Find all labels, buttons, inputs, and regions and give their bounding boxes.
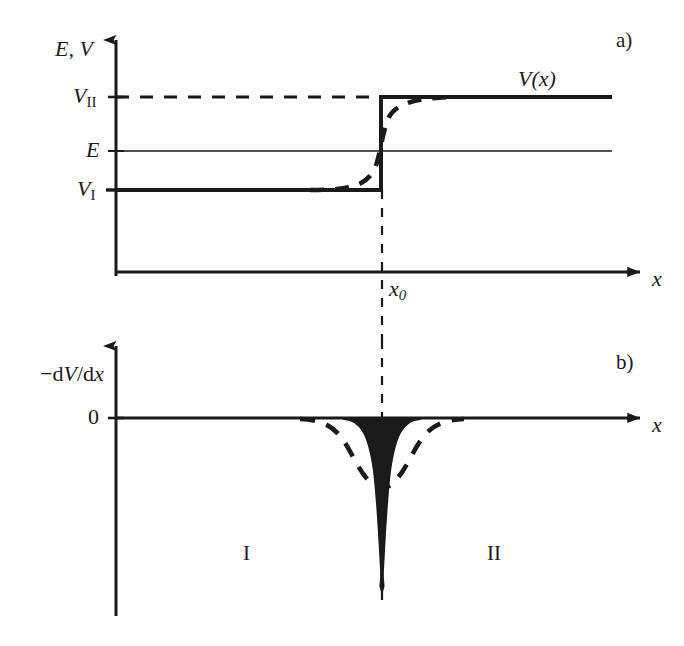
panel-a-tag: a) <box>616 30 632 51</box>
panel-b-group <box>108 340 640 616</box>
y-axis-label-text: E, V <box>55 36 93 61</box>
level-vi-label: VI <box>77 178 95 203</box>
potential-curve-label: V(x) <box>518 68 556 90</box>
panel-a-x-axis-label: x <box>652 268 662 290</box>
panel-a-y-axis-label: E, V <box>55 38 93 60</box>
level-vii-symbol: V <box>73 83 86 108</box>
region-label-two: II <box>487 543 501 564</box>
x0-subscript: 0 <box>399 287 406 303</box>
x-symbol: x <box>94 361 104 386</box>
x-axis-label-text: x <box>652 266 662 291</box>
level-vii-label: VII <box>73 85 96 110</box>
v-symbol: V <box>63 361 76 386</box>
level-e-label: E <box>86 139 99 161</box>
panel-b-x-axis-label-text: x <box>652 412 662 437</box>
region-label-one: I <box>243 543 250 564</box>
x0-symbol: x <box>389 276 399 301</box>
level-vi-symbol: V <box>77 176 90 201</box>
potential-step-solid-curve <box>116 97 612 190</box>
panel-b-y-axis-label: −dV/dx <box>40 363 104 385</box>
panel-b-tag: b) <box>616 352 634 373</box>
minus-sign: − <box>40 361 52 386</box>
level-vii-subscript: II <box>86 94 96 110</box>
figure-canvas <box>0 0 684 646</box>
zero-label: 0 <box>88 406 99 428</box>
panel-a-group <box>106 40 640 340</box>
d-operator-1: d <box>52 361 63 386</box>
level-e-symbol: E <box>86 137 99 162</box>
level-vi-subscript: I <box>90 187 95 203</box>
panel-b-x-axis-label: x <box>652 414 662 436</box>
physics-figure: a) E, V x V(x) VII E VI x0 b) −dV/dx 0 x… <box>0 0 684 646</box>
d-operator-2: d <box>83 361 94 386</box>
x0-label: x0 <box>389 278 406 303</box>
potential-curve-label-text: V(x) <box>518 66 556 91</box>
